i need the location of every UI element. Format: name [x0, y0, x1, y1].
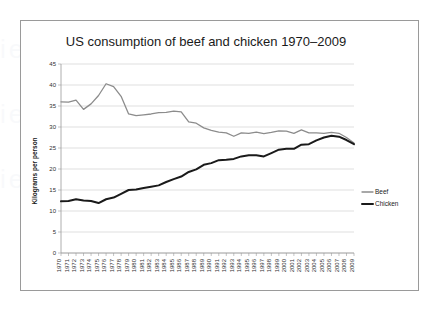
y-tick-label: 35 — [49, 103, 56, 109]
x-tick-label: 2000 — [281, 258, 287, 272]
legend-label-chicken: Chicken — [375, 200, 399, 207]
axis-lines — [61, 64, 354, 253]
x-tick-label: 1983 — [154, 258, 160, 272]
y-tick-label: 0 — [53, 250, 57, 256]
series-line-beef — [61, 84, 354, 143]
legend-label-beef: Beef — [375, 188, 389, 195]
x-tick-label: 1975 — [94, 258, 100, 272]
x-tick-label: 1990 — [206, 258, 212, 272]
x-tick-label: 1998 — [266, 258, 272, 272]
x-tick-label: 1970 — [56, 258, 62, 272]
x-tick-label: 1994 — [236, 258, 242, 272]
x-tick-label: 1978 — [116, 258, 122, 272]
x-tick-label: 1995 — [244, 258, 250, 272]
x-tick-label: 2002 — [296, 258, 302, 272]
x-tick-label: 1981 — [139, 258, 145, 272]
x-tick-label: 1971 — [64, 258, 70, 272]
x-tick-label: 1988 — [191, 258, 197, 272]
x-tick-label: 1976 — [101, 258, 107, 272]
y-tick-label: 15 — [49, 187, 56, 193]
x-tick-label: 1974 — [86, 258, 92, 272]
chart-figure-frame: US consumption of beef and chicken 1970–… — [20, 20, 419, 291]
x-tick-label: 1986 — [176, 258, 182, 272]
x-tick-label: 1982 — [146, 258, 152, 272]
x-tick-label: 2007 — [334, 258, 340, 272]
y-tick-label: 10 — [49, 208, 56, 214]
x-tick-label: 1992 — [221, 258, 227, 272]
y-tick-label: 40 — [49, 82, 56, 88]
x-tick-label: 1993 — [229, 258, 235, 272]
y-tick-label: 45 — [49, 61, 56, 67]
y-tick-label: 5 — [53, 229, 57, 235]
x-axis-tick-labels: 1970197119721973197419751976197719781979… — [56, 253, 355, 272]
chart-legend: BeefChicken — [362, 188, 399, 207]
y-gridlines — [58, 64, 354, 253]
x-tick-label: 1989 — [199, 258, 205, 272]
y-axis-tick-labels: 051015202530354045 — [49, 61, 56, 256]
x-tick-label: 1999 — [274, 258, 280, 272]
x-tick-label: 2006 — [326, 258, 332, 272]
x-tick-label: 1991 — [214, 258, 220, 272]
line-chart: US consumption of beef and chicken 1970–… — [21, 21, 420, 292]
data-series-group — [61, 84, 354, 203]
y-tick-label: 30 — [49, 124, 56, 130]
x-tick-label: 1977 — [109, 258, 115, 272]
x-tick-label: 1973 — [79, 258, 85, 272]
x-tick-label: 1972 — [71, 258, 77, 272]
y-axis-title: Kilograms per person — [31, 137, 39, 204]
x-tick-label: 1997 — [259, 258, 265, 272]
series-line-chicken — [61, 136, 354, 203]
x-tick-label: 2001 — [289, 258, 295, 272]
x-tick-label: 1979 — [124, 258, 130, 272]
x-tick-label: 2003 — [304, 258, 310, 272]
y-tick-label: 20 — [49, 166, 56, 172]
x-tick-label: 2005 — [319, 258, 325, 272]
x-tick-label: 2008 — [341, 258, 347, 272]
x-tick-label: 1984 — [161, 258, 167, 272]
x-tick-label: 1987 — [184, 258, 190, 272]
x-tick-label: 2004 — [311, 258, 317, 272]
x-tick-label: 1980 — [131, 258, 137, 272]
y-tick-label: 25 — [49, 145, 56, 151]
x-tick-label: 1996 — [251, 258, 257, 272]
x-tick-label: 1985 — [169, 258, 175, 272]
x-tick-label: 2009 — [349, 258, 355, 272]
chart-title: US consumption of beef and chicken 1970–… — [66, 34, 346, 49]
